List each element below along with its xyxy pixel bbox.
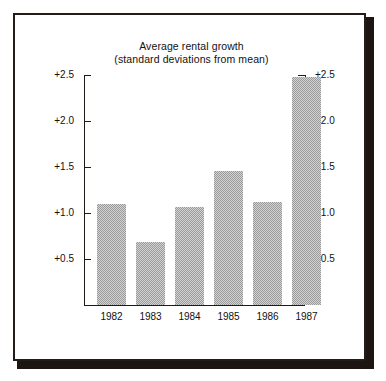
bar-1982 — [97, 204, 126, 305]
y-axis-left-spine — [84, 75, 85, 305]
bar-1986 — [253, 202, 282, 305]
y-tick-left-1.0 — [84, 213, 91, 214]
plot-area: +2.5 +2.5 +2.0 +2.0 +1.5 +1.5 +1.0 +1.0 … — [84, 75, 305, 305]
x-label-1987: 1987 — [292, 311, 321, 322]
y-label-left-1.5: +1.5 — [54, 162, 74, 172]
x-label-1985: 1985 — [214, 311, 243, 322]
x-label-1986: 1986 — [253, 311, 282, 322]
y-tick-left-2.5 — [84, 75, 91, 76]
x-label-1984: 1984 — [175, 311, 204, 322]
y-label-left-0.5: +0.5 — [54, 254, 74, 264]
x-label-1983: 1983 — [136, 311, 165, 322]
chart-title: Average rental growth (standard deviatio… — [15, 40, 368, 65]
x-label-1982: 1982 — [97, 311, 126, 322]
y-tick-left-0.5 — [84, 259, 91, 260]
bar-1987 — [292, 77, 321, 305]
y-label-left-2.5: +2.5 — [54, 70, 74, 80]
bar-1983 — [136, 242, 165, 305]
x-axis-spine — [84, 305, 305, 306]
bar-1984 — [175, 207, 204, 305]
y-label-left-1.0: +1.0 — [54, 208, 74, 218]
bar-1985 — [214, 171, 243, 305]
y-label-left-2.0: +2.0 — [54, 116, 74, 126]
chart-panel: Average rental growth (standard deviatio… — [13, 13, 366, 361]
y-tick-left-1.5 — [84, 167, 91, 168]
y-tick-right-2.5 — [298, 75, 305, 76]
chart-figure: Average rental growth (standard deviatio… — [0, 0, 386, 381]
chart-title-line-1: Average rental growth — [15, 40, 368, 53]
y-tick-left-2.0 — [84, 121, 91, 122]
chart-title-subtitle: (standard deviations from mean) — [15, 53, 368, 66]
